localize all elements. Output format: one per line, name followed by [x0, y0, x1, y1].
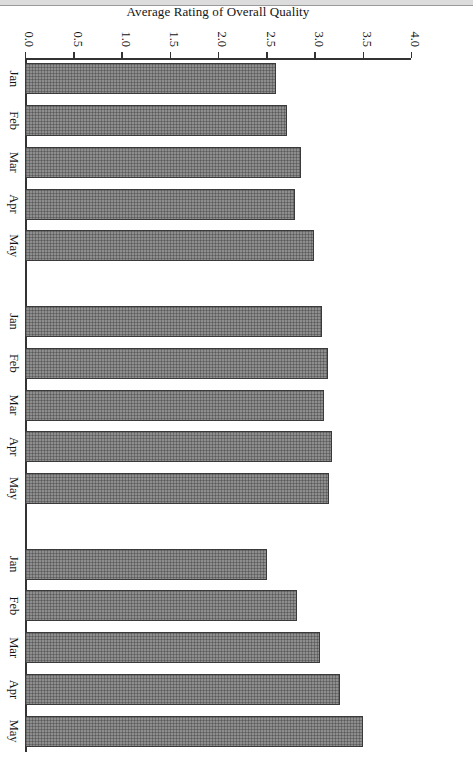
- bar: [25, 632, 320, 663]
- value-tick-label: 0.0: [23, 31, 36, 47]
- category-tick-label: Apr: [6, 437, 21, 456]
- value-tick-label: 3.5: [361, 31, 374, 47]
- bars-layer: [25, 58, 411, 752]
- category-axis-labels: JanFebMarAprMayJanFebMarAprMayJanFebMarA…: [0, 58, 21, 752]
- value-tick-label: 2.0: [216, 31, 229, 47]
- bar: [25, 390, 324, 421]
- bar: [25, 230, 315, 261]
- category-tick-label: Jan: [6, 71, 21, 88]
- value-tick-label: 1.0: [119, 31, 132, 47]
- category-tick-label: Mar: [6, 395, 21, 416]
- bar: [25, 549, 267, 580]
- category-tick-label: Jan: [6, 556, 21, 573]
- category-tick-label: May: [6, 234, 21, 257]
- bar: [25, 590, 297, 621]
- bar: [25, 473, 329, 504]
- plot-area: 0.00.51.01.52.02.53.03.54.0 Average Rati…: [25, 58, 411, 752]
- value-tick-label: 4.0: [409, 31, 422, 47]
- bar-chart: 0.00.51.01.52.02.53.03.54.0 Average Rati…: [0, 0, 473, 768]
- category-tick-label: Apr: [6, 680, 21, 699]
- value-tick-label: 2.5: [264, 31, 277, 47]
- bar: [25, 147, 301, 178]
- category-tick-label: Feb: [6, 354, 21, 373]
- value-axis-title: Average Rating of Overall Quality: [127, 4, 310, 20]
- value-tick-label: 1.5: [168, 31, 181, 47]
- rotated-figure-wrapper: 0.00.51.01.52.02.53.03.54.0 Average Rati…: [0, 0, 473, 768]
- bar: [25, 716, 363, 747]
- category-tick-label: Jan: [6, 313, 21, 330]
- category-tick-label: May: [6, 720, 21, 743]
- bar: [25, 306, 322, 337]
- bar: [25, 63, 276, 94]
- category-tick-label: May: [6, 477, 21, 500]
- category-tick-label: Feb: [6, 597, 21, 616]
- bar: [25, 189, 295, 220]
- value-tick-label: 3.0: [312, 31, 325, 47]
- value-tick-label: 0.5: [71, 31, 84, 47]
- category-tick-label: Feb: [6, 111, 21, 130]
- bar: [25, 431, 332, 462]
- value-tick: 4.0: [411, 52, 412, 58]
- bar: [25, 105, 287, 136]
- category-tick-label: Mar: [6, 152, 21, 173]
- bar: [25, 674, 340, 705]
- category-tick-label: Apr: [6, 194, 21, 213]
- bar: [25, 348, 328, 379]
- category-tick-label: Mar: [6, 637, 21, 658]
